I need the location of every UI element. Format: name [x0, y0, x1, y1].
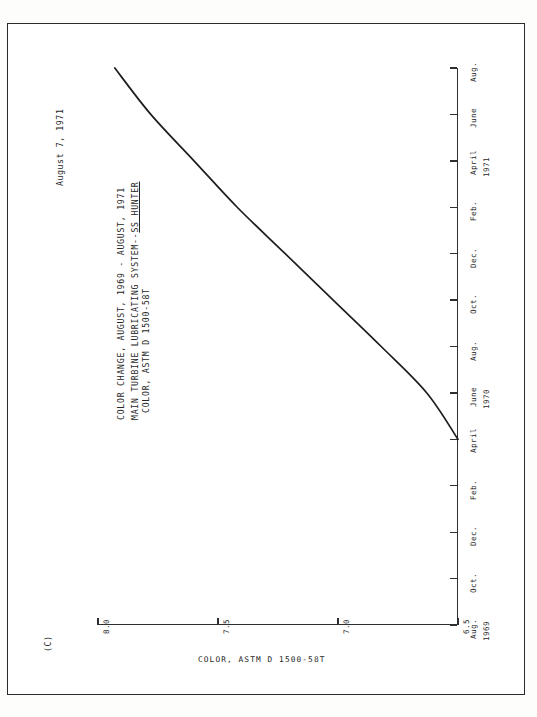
time-axis-tick — [450, 578, 457, 579]
time-axis-tick — [450, 439, 457, 440]
time-axis-tick — [450, 67, 457, 68]
value-axis-tick — [97, 618, 98, 625]
plot-area: 8.07.57.06.5 Aug.1969Oct.Dec.Feb.AprilJu… — [0, 0, 537, 717]
time-axis-tick-label: Oct. — [469, 294, 478, 314]
time-axis-tick-label: Dec. — [469, 526, 478, 546]
time-axis-tick-label: June — [469, 109, 478, 129]
time-axis-tick-label: Oct. — [469, 573, 478, 593]
time-axis-tick-label: April — [469, 428, 478, 453]
time-axis-tick — [450, 253, 457, 254]
time-axis-tick — [450, 346, 457, 347]
time-axis-tick-label: Aug. — [469, 341, 478, 361]
value-axis-tick — [457, 618, 458, 625]
color-change-curve — [115, 68, 458, 439]
value-axis-tick — [217, 618, 218, 625]
time-axis-tick — [450, 160, 457, 161]
time-axis-tick-label: Feb. — [469, 201, 478, 221]
time-axis-tick — [450, 114, 457, 115]
time-axis-tick — [450, 532, 457, 533]
scanned-page: August 7, 1971 (C) COLOR CHANGE, AUGUST,… — [0, 0, 537, 717]
time-axis-tick-label: Aug. — [469, 62, 478, 82]
value-axis-tick-label: 7.0 — [342, 619, 351, 634]
time-axis-tick-label: Dec. — [469, 248, 478, 268]
time-axis-tick-label: June — [469, 387, 478, 407]
time-axis-tick-label: April — [469, 150, 478, 175]
value-axis-tick — [337, 618, 338, 625]
time-axis-tick-label: Feb. — [469, 480, 478, 500]
value-axis-title: COLOR, ASTM D 1500-58T — [198, 655, 325, 664]
time-axis-tick — [450, 207, 457, 208]
time-axis-tick — [450, 392, 457, 393]
value-axis-tick-label: 8.0 — [102, 619, 111, 634]
value-axis-tick-label: 7.5 — [222, 619, 231, 634]
time-axis-tick — [450, 299, 457, 300]
time-axis-tick — [450, 485, 457, 486]
time-axis-year-label: 1970 — [482, 389, 491, 409]
time-axis-tick — [450, 624, 457, 625]
time-axis-tick-label: Aug. — [469, 619, 478, 639]
time-axis-year-label: 1971 — [482, 157, 491, 177]
time-axis-year-label: 1969 — [482, 621, 491, 641]
time-axis-line — [457, 68, 458, 625]
value-axis-line — [98, 624, 458, 625]
